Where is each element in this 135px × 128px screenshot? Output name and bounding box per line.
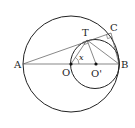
label-a: A <box>13 59 22 70</box>
segment-bc <box>111 33 119 64</box>
point-o <box>69 62 72 65</box>
label-t: T <box>82 27 89 38</box>
label-c: C <box>110 22 118 33</box>
label-b: B <box>121 59 128 70</box>
geometry-diagram: A B O O' T C x <box>0 0 135 128</box>
point-o-prime <box>94 62 97 65</box>
label-angle-x: x <box>79 53 84 62</box>
label-o: O <box>62 67 70 78</box>
label-o-prime: O' <box>91 68 102 79</box>
